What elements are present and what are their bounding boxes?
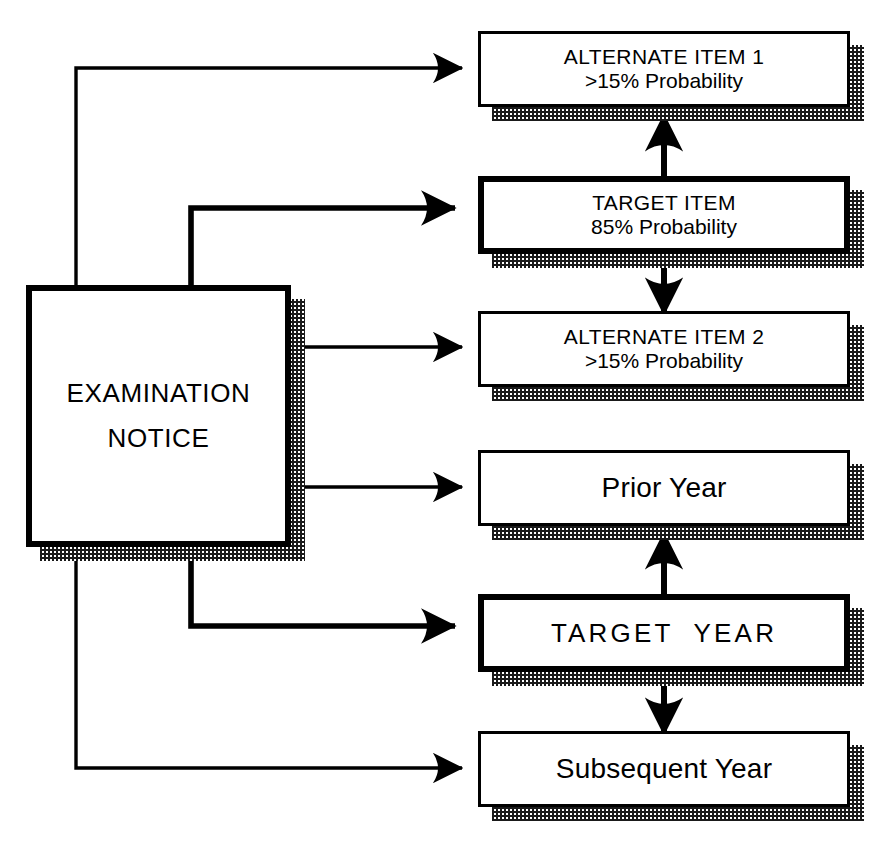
node-body: ALTERNATE ITEM 1 >15% Probability — [478, 31, 850, 107]
edge-notice-to-subsequent-year — [76, 545, 462, 768]
node-prior-year[interactable]: Prior Year — [478, 450, 850, 526]
node-label-examination-notice: EXAMINATION — [67, 371, 251, 417]
node-label-alternate-item-2: ALTERNATE ITEM 2 — [564, 325, 765, 349]
node-examination-notice[interactable]: EXAMINATION NOTICE — [26, 285, 291, 547]
node-alternate-item-2[interactable]: ALTERNATE ITEM 2 >15% Probability — [478, 311, 850, 387]
node-body: TARGET YEAR — [478, 594, 850, 672]
node-label-alternate-item-1: ALTERNATE ITEM 1 — [564, 45, 765, 69]
node-body: ALTERNATE ITEM 2 >15% Probability — [478, 311, 850, 387]
edge-notice-to-target-item — [191, 208, 455, 287]
node-label-target-year: TARGET YEAR — [551, 618, 777, 648]
node-subsequent-year[interactable]: Subsequent Year — [478, 731, 850, 807]
diagram-canvas: EXAMINATION NOTICE ALTERNATE ITEM 1 >15%… — [0, 0, 890, 844]
node-sublabel-alternate-item-1: >15% Probability — [585, 69, 743, 93]
node-alternate-item-1[interactable]: ALTERNATE ITEM 1 >15% Probability — [478, 31, 850, 107]
node-label-prior-year: Prior Year — [602, 472, 727, 504]
node-target-year[interactable]: TARGET YEAR — [478, 594, 850, 672]
node-body: Subsequent Year — [478, 731, 850, 807]
node-body: Prior Year — [478, 450, 850, 526]
node-sublabel-target-item: 85% Probability — [591, 215, 737, 239]
node-label-examination-notice-line2: NOTICE — [108, 416, 210, 462]
node-body: EXAMINATION NOTICE — [26, 285, 291, 547]
node-label-subsequent-year: Subsequent Year — [556, 753, 772, 785]
node-body: TARGET ITEM 85% Probability — [478, 176, 850, 254]
node-target-item[interactable]: TARGET ITEM 85% Probability — [478, 176, 850, 254]
node-sublabel-alternate-item-2: >15% Probability — [585, 349, 743, 373]
node-label-target-item: TARGET ITEM — [592, 191, 736, 215]
